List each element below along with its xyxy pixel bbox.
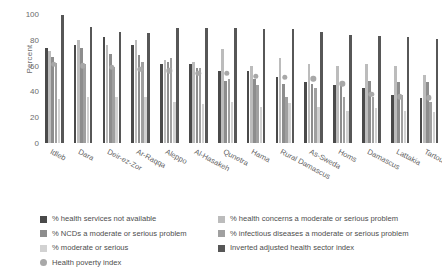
legend-label: % health concerns a moderate or serious … [230,215,398,223]
legend-item[interactable]: % moderate or serious [40,241,187,256]
bar [90,27,93,143]
health-poverty-index-dot [282,75,287,80]
bar-group [74,14,93,143]
bar [292,29,295,143]
x-tick-label: Tartous [423,147,442,166]
legend-dot-icon [40,259,47,266]
legend-item[interactable]: % health services not available [40,212,187,227]
legend-label: % health services not available [52,215,156,223]
bar [176,28,179,143]
y-tick-label: 100 [5,10,39,19]
legend-column-right: % health concerns a moderate or serious … [218,212,409,256]
legend-item[interactable]: % health concerns a moderate or serious … [218,212,409,227]
y-tick-label: 0 [5,139,39,148]
legend-swatch-icon [40,216,47,223]
bar-group [304,14,323,143]
bar [436,39,439,143]
bar-group [189,14,208,143]
bar-group [276,14,295,143]
bar [407,37,410,143]
bar [61,15,64,143]
legend-label: % moderate or serious [52,244,128,252]
x-tick-label: Aleppo [164,147,189,166]
x-axis-labels: IdlebDaraDeir-ez-ZorAr-RaqqaAleppoAl-Has… [45,143,439,195]
health-poverty-index-dot [224,71,229,76]
bar-group [391,14,410,143]
legend-item[interactable]: % NCDs a moderate or serious problem [40,227,187,242]
legend-item[interactable]: Inverted adjusted health sector index [218,241,409,256]
health-poverty-index-dot [253,73,258,78]
legend-column-left: % health services not available% NCDs a … [40,212,187,270]
bar-group [131,14,150,143]
bar [320,32,323,143]
y-axis-ticks: 100806040200 [0,14,45,143]
y-tick-label: 60 [5,61,39,70]
bar-group [333,14,352,143]
bar-group [45,14,64,143]
legend-swatch-icon [218,230,225,237]
chart-container: Percent 100806040200 IdlebDaraDeir-ez-Zo… [0,0,442,278]
bar [263,29,266,143]
bar [205,28,208,143]
x-tick-label: Dara [77,147,96,163]
bar-group [160,14,179,143]
plot-area [45,14,439,143]
bar-group [218,14,237,143]
legend-item[interactable]: Health poverty index [40,256,187,271]
chart-legend: % health services not available% NCDs a … [40,212,440,272]
legend-label: Health poverty index [52,259,121,267]
legend-swatch-icon [218,245,225,252]
bar [234,28,237,143]
bar [119,32,122,143]
y-tick-label: 80 [5,35,39,44]
legend-item[interactable]: % infectious diseases a moderate or seri… [218,227,409,242]
bar [147,33,150,143]
legend-swatch-icon [218,216,225,223]
x-tick-label: Idleb [48,147,67,163]
legend-swatch-icon [40,230,47,237]
health-poverty-index-dot [340,81,345,86]
bar-group [103,14,122,143]
legend-swatch-icon [40,245,47,252]
bar-group [247,14,266,143]
health-poverty-index-dot [426,95,431,100]
bar [378,36,381,143]
legend-label: % NCDs a moderate or serious problem [52,230,187,238]
bar [349,35,352,143]
y-tick-label: 20 [5,113,39,122]
bar-groups [45,14,439,143]
legend-label: Inverted adjusted health sector index [230,244,354,252]
bar-group [420,14,439,143]
health-poverty-index-dot [311,76,316,81]
bar-group [362,14,381,143]
legend-label: % infectious diseases a moderate or seri… [230,230,409,238]
y-tick-label: 40 [5,87,39,96]
x-tick-label: Hama [250,147,272,164]
